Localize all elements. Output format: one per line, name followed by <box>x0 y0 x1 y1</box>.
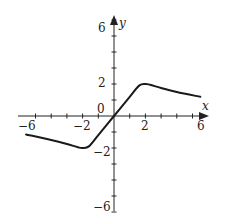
x-tick-label-neg6: −6 <box>18 119 36 133</box>
origin-label: 0 <box>97 102 105 116</box>
x-tick-label-pos2: 2 <box>141 119 149 133</box>
axes <box>18 15 209 211</box>
x-tick-label-neg2: −2 <box>73 119 91 133</box>
y-tick-label-pos2: 2 <box>98 76 106 90</box>
x-tick-label-pos6: 6 <box>197 119 205 133</box>
y-tick-label-neg6: −6 <box>93 200 111 214</box>
chart: x y 0 −6 −2 2 6 6 2 −2 −6 <box>0 0 236 223</box>
y-tick-label-pos6: 6 <box>98 21 106 35</box>
x-axis-label: x <box>202 99 209 113</box>
y-axis-label: y <box>118 16 126 30</box>
y-tick-label-neg2: −2 <box>93 145 111 159</box>
